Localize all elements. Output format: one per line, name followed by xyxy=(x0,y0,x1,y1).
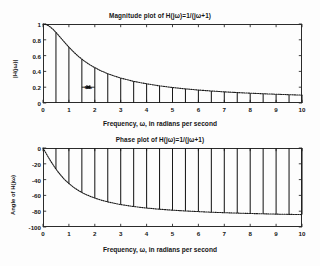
y-tick-label: 0.2 xyxy=(22,84,41,91)
phase-plot-panel: Phase plot of H(jω)=1/(jω+1) Angle of H(… xyxy=(0,133,320,266)
x-tick-label: 9 xyxy=(274,106,277,113)
x-tick-label: 0 xyxy=(41,230,44,237)
x-tick-label: 9 xyxy=(274,230,277,237)
y-tick-label: -60 xyxy=(22,192,41,199)
y-tick-label: 0.8 xyxy=(22,36,41,43)
y-tick-label: 0.4 xyxy=(22,68,41,75)
omega-zero-annotation-label: ω₀ xyxy=(84,84,92,90)
x-tick-label: 7 xyxy=(223,230,226,237)
y-tick-label: 1 xyxy=(22,21,41,28)
x-tick-label: 4 xyxy=(145,106,148,113)
magnitude-x-axis-label: Frequency, ω, in radians per second xyxy=(0,120,320,127)
y-tick-label: 0 xyxy=(22,100,41,107)
x-tick-label: 3 xyxy=(119,106,122,113)
y-tick-label: 0 xyxy=(22,145,41,152)
x-tick-label: 2 xyxy=(93,230,96,237)
x-tick-label: 3 xyxy=(119,230,122,237)
x-tick-label: 5 xyxy=(171,230,174,237)
x-tick-label: 0 xyxy=(41,106,44,113)
x-tick-label: 2 xyxy=(93,106,96,113)
x-tick-label: 7 xyxy=(223,106,226,113)
magnitude-plot-canvas xyxy=(0,0,320,133)
x-tick-label: 10 xyxy=(299,106,306,113)
x-tick-label: 6 xyxy=(197,106,200,113)
y-tick-label: -40 xyxy=(22,176,41,183)
x-tick-label: 4 xyxy=(145,230,148,237)
magnitude-plot-panel: Magnitude plot of H(jω)=1/(jω+1) |H(jω)|… xyxy=(0,0,320,133)
y-tick-label: 0.6 xyxy=(22,52,41,59)
y-tick-label: -80 xyxy=(22,208,41,215)
x-tick-label: 8 xyxy=(248,230,251,237)
y-tick-label: -20 xyxy=(22,160,41,167)
matlab-figure-window: Magnitude plot of H(jω)=1/(jω+1) |H(jω)|… xyxy=(0,0,320,266)
phase-x-axis-label: Frequency, ω, in radians per second xyxy=(0,246,320,253)
x-tick-label: 6 xyxy=(197,230,200,237)
x-tick-label: 8 xyxy=(248,106,251,113)
x-tick-label: 1 xyxy=(67,106,70,113)
x-tick-label: 1 xyxy=(67,230,70,237)
x-tick-label: 5 xyxy=(171,106,174,113)
y-tick-label: -100 xyxy=(22,224,41,231)
x-tick-label: 10 xyxy=(299,230,306,237)
